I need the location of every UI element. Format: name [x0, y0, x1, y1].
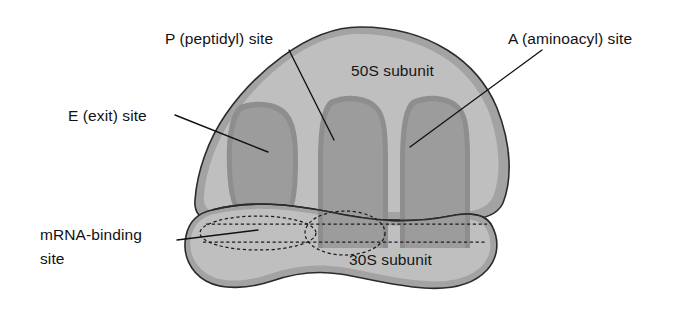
label-30s-subunit: 30S subunit [349, 251, 433, 268]
label-p-site: P (peptidyl) site [165, 30, 273, 47]
label-e-site: E (exit) site [68, 107, 147, 124]
label-50s-subunit: 50S subunit [351, 62, 435, 79]
label-mrna-binding-line1: mRNA-binding [40, 226, 142, 243]
ribosome-figure-svg: P (peptidyl) site A (aminoacyl) site E (… [0, 0, 689, 317]
label-mrna-binding-line2: site [40, 250, 65, 267]
ribosome-diagram: P (peptidyl) site A (aminoacyl) site E (… [0, 0, 689, 317]
label-a-site: A (aminoacyl) site [508, 30, 632, 47]
